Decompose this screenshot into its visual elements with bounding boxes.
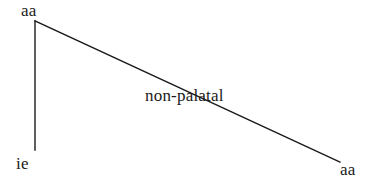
right-leaf-label: aa [340,161,356,178]
root-node-label: aa [21,2,37,19]
right-branch-condition-label: non-palatal [145,87,224,104]
left-leaf-label: ie [16,155,29,172]
branching-diagram: aa ie non-palatal aa [0,0,375,184]
